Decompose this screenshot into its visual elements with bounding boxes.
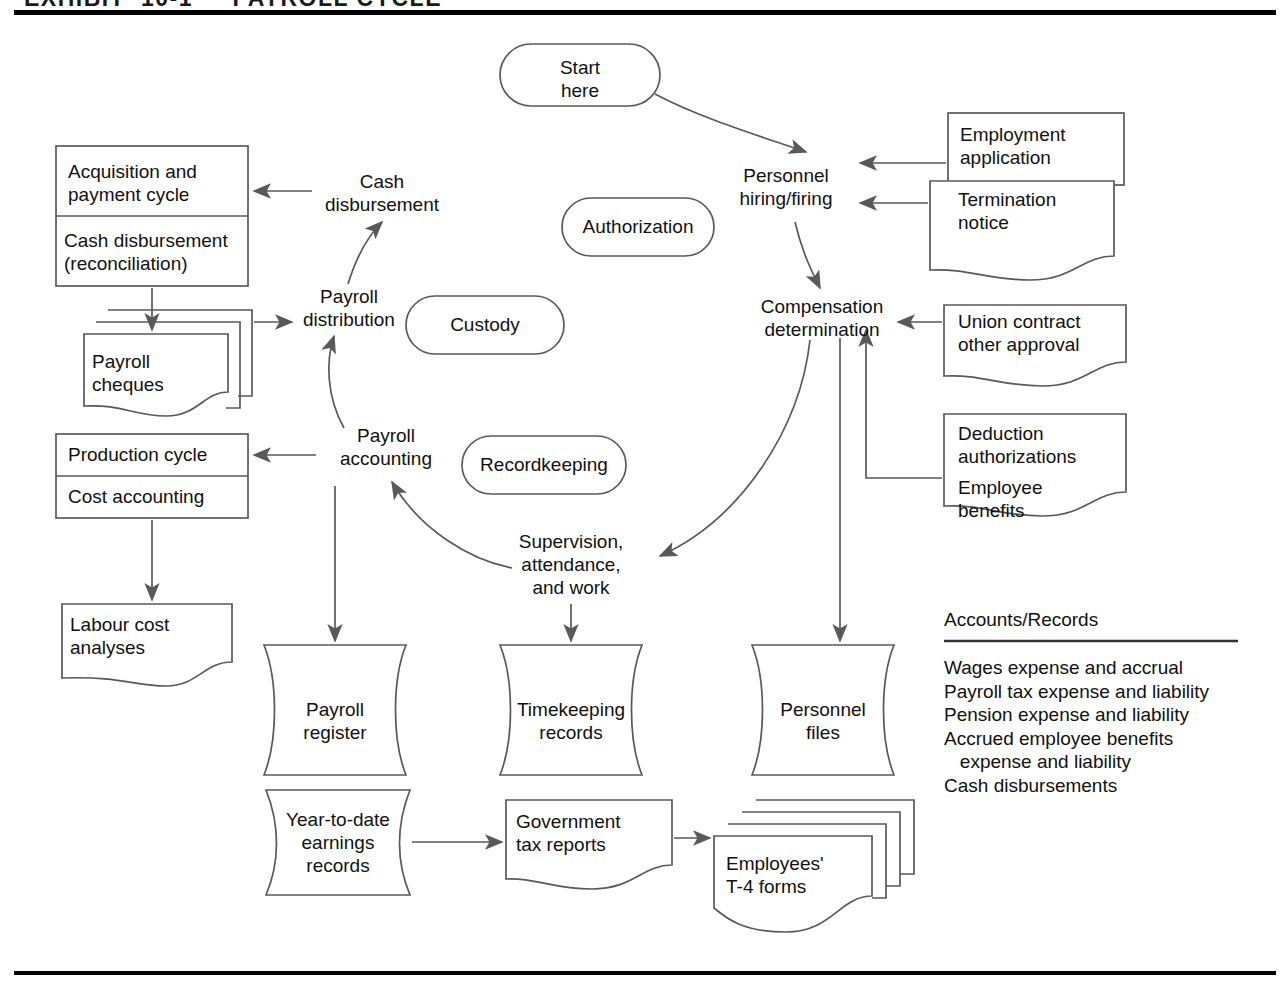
arc-compensation-to-supervision — [660, 340, 810, 556]
acquisition-box-label: Acquisition and payment cycle — [68, 160, 197, 206]
cash-disbursement-label: Cash disbursement — [325, 170, 439, 216]
exhibit-diagram: EXHIBIT 10-1 PAYROLL CYCLE — [0, 0, 1288, 998]
employee-benefits-label: Employee benefits — [958, 476, 1043, 522]
arrow-deduction-to-compensation — [866, 330, 942, 478]
ytd-earnings-label: Year-to-date earnings records — [286, 808, 390, 877]
accounts-records-list: Wages expense and accrual Payroll tax ex… — [944, 656, 1209, 797]
arc-payroll-accounting-to-distribution — [329, 336, 344, 428]
personnel-hiring-label: Personnel hiring/firing — [740, 164, 833, 210]
personnel-files-label: Personnel files — [780, 698, 866, 744]
payroll-register-label: Payroll register — [303, 698, 366, 744]
arc-distribution-to-cash-disbursement — [348, 222, 382, 284]
supervision-label: Supervision, attendance, and work — [519, 530, 624, 599]
authorization-label: Authorization — [583, 215, 694, 238]
government-tax-reports-label: Government tax reports — [516, 810, 621, 856]
custody-label: Custody — [450, 313, 520, 336]
accounts-records-heading: Accounts/Records — [944, 608, 1098, 632]
payroll-distribution-label: Payroll distribution — [303, 285, 395, 331]
arrow-start-to-personnel — [655, 94, 806, 152]
arc-supervision-to-payroll-accounting — [392, 482, 512, 568]
arrow-personnel-to-compensation — [795, 222, 820, 288]
start-here-label: Start here — [560, 56, 600, 102]
payroll-cheques-label: Payroll cheques — [92, 350, 164, 396]
payroll-accounting-label: Payroll accounting — [340, 424, 432, 470]
termination-notice-label: Termination notice — [958, 188, 1056, 234]
union-contract-label: Union contract other approval — [958, 310, 1081, 356]
labour-cost-label: Labour cost analyses — [70, 613, 169, 659]
deduction-authorizations-label: Deduction authorizations — [958, 422, 1076, 468]
production-cycle-label: Production cycle — [68, 443, 207, 466]
cash-disbursement-recon-label: Cash disbursement (reconciliation) — [64, 229, 228, 275]
cost-accounting-label: Cost accounting — [68, 485, 204, 508]
recordkeeping-label: Recordkeeping — [480, 453, 608, 476]
compensation-label: Compensation determination — [761, 295, 884, 341]
employees-t4-label: Employees' T-4 forms — [726, 852, 824, 898]
timekeeping-records-label: Timekeeping records — [517, 698, 625, 744]
employment-application-label: Employment application — [960, 123, 1066, 169]
